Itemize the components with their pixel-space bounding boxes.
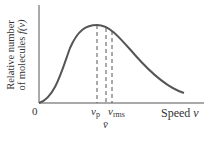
vrms-sub: rms <box>113 110 125 119</box>
x-axis-label-text: Speed <box>161 106 193 120</box>
vp-sub: p <box>96 110 100 119</box>
vrms-label: vrms <box>108 105 125 119</box>
vbar-label: v̄ <box>103 118 108 130</box>
y-axis-label-line1: Relative number <box>5 5 16 105</box>
distribution-curve <box>39 25 184 103</box>
vp-label: vp <box>91 105 100 119</box>
y-axis-label-fv: f(v) <box>16 19 27 34</box>
x-axis-label-var: v <box>193 106 198 120</box>
y-axis-label: Relative number of molecules f(v) <box>5 5 35 105</box>
x-axis-label: Speed v <box>161 106 199 121</box>
y-axis-label-line2: of molecules <box>16 34 27 91</box>
origin-label: 0 <box>32 105 38 117</box>
